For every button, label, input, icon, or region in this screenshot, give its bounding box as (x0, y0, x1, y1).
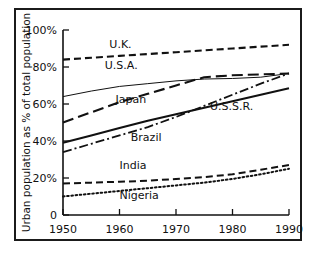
line-chart: 020%40%60%80%100%19501960197019801990Urb… (0, 0, 316, 255)
y-tick-label: 80% (33, 61, 57, 74)
x-tick-label: 1960 (106, 223, 134, 236)
y-tick-label: 40% (33, 135, 57, 148)
series-label-usa: U.S.A. (105, 59, 138, 72)
x-tick-label: 1970 (162, 223, 190, 236)
series-label-india: India (120, 159, 147, 172)
x-tick-label: 1980 (219, 223, 247, 236)
series-label-nigeria: Nigeria (120, 189, 159, 202)
x-tick-label: 1990 (275, 223, 303, 236)
series-label-ussr: U.S.S.R. (210, 100, 253, 113)
x-tick-label: 1950 (49, 223, 77, 236)
series-line-ussr (63, 88, 289, 143)
series-label-brazil: Brazil (131, 131, 162, 144)
y-tick-label: 0 (50, 209, 57, 222)
series-label-uk: U.K. (109, 38, 131, 51)
series-line-uk (63, 45, 289, 60)
y-tick-label: 60% (33, 98, 57, 111)
figure: 020%40%60%80%100%19501960197019801990Urb… (0, 0, 316, 255)
series-label-japan: Japan (115, 93, 147, 106)
y-axis-title: Urban population as % of total populatio… (20, 13, 32, 233)
y-tick-label: 20% (33, 172, 57, 185)
